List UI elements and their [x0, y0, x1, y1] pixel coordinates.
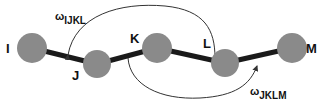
torsion-label-jklm: ωJKLM — [250, 85, 287, 101]
atom-label-j: J — [72, 68, 79, 83]
dihedral-diagram: I J K L M ωIJKL ωJKLM — [0, 0, 323, 112]
atom-j — [83, 50, 111, 78]
atom-i — [17, 33, 47, 63]
omega-symbol: ω — [55, 10, 64, 22]
torsion-subscript: IJKL — [64, 15, 86, 26]
atom-label-m: M — [306, 41, 317, 56]
omega-symbol: ω — [250, 85, 259, 97]
atom-k — [142, 33, 172, 63]
torsion-label-ijkl: ωIJKL — [55, 10, 86, 26]
atom-label-i: I — [6, 41, 10, 56]
atom-label-l: L — [203, 36, 211, 51]
atom-label-k: K — [130, 31, 140, 46]
atom-l — [211, 49, 239, 77]
atom-m — [277, 33, 307, 63]
torsion-subscript: JKLM — [259, 90, 286, 101]
